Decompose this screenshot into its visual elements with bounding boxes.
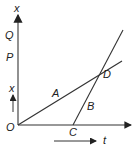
position-time-diagram: x Q P x O A B D C t [0, 0, 139, 149]
x-arrow-label: x [8, 82, 15, 94]
line-b-label: B [87, 100, 94, 112]
x-axis-label: x [13, 2, 20, 14]
q-label: Q [5, 29, 14, 41]
line-a-label: A [51, 87, 59, 99]
line-b [73, 30, 123, 125]
point-d-label: D [103, 68, 111, 80]
point-c-label: C [69, 126, 77, 138]
p-label: P [6, 51, 14, 63]
t-arrow-label: t [103, 134, 107, 146]
origin-label: O [6, 121, 15, 133]
